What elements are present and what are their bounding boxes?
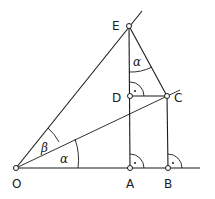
- label-B: B: [164, 177, 172, 191]
- label-alpha-E: α: [133, 55, 141, 69]
- line-OE: [16, 11, 142, 168]
- diagram-canvas: O A B C D E α β α: [0, 0, 215, 199]
- point-A: [128, 166, 133, 171]
- point-B: [166, 166, 171, 171]
- label-A: A: [126, 177, 135, 191]
- right-angle-dot-D: [134, 90, 136, 92]
- point-C: [165, 94, 170, 99]
- label-E: E: [112, 19, 120, 33]
- label-C: C: [174, 91, 182, 105]
- right-angle-dot-B: [172, 162, 174, 164]
- line-CB: [167, 96, 168, 168]
- label-D: D: [112, 91, 121, 105]
- angle-arc-beta-O: [48, 128, 59, 142]
- point-E: [127, 24, 132, 29]
- point-D: [128, 94, 133, 99]
- angle-arc-alpha-O: [75, 139, 79, 168]
- right-angle-dot-A: [134, 162, 136, 164]
- geometry-diagram: O A B C D E α β α: [0, 0, 215, 199]
- line-OC: [16, 90, 180, 168]
- label-alpha-O: α: [60, 152, 68, 166]
- point-O: [14, 166, 19, 171]
- label-O: O: [12, 177, 21, 191]
- label-beta-O: β: [40, 141, 48, 155]
